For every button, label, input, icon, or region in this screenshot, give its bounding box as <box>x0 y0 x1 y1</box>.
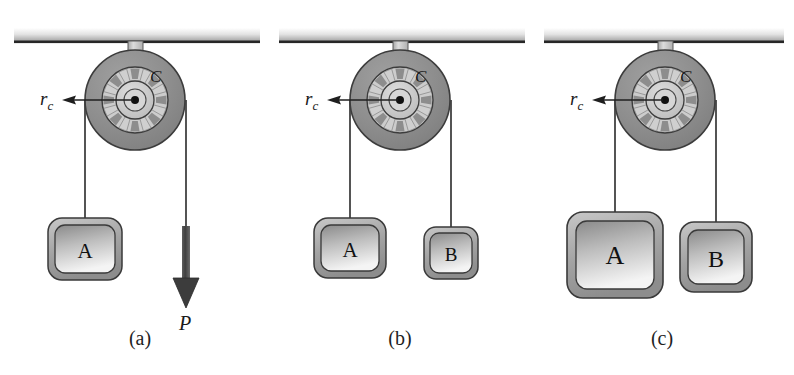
block-b-panel-c: B <box>680 222 752 292</box>
radius-label-c: rc <box>570 88 583 113</box>
physics-diagram-canvas: rc C A P (a) <box>0 0 794 375</box>
pulley-label-c: C <box>680 67 692 86</box>
pulley-label-b: C <box>415 67 427 86</box>
radius-label-b: rc <box>305 88 318 113</box>
panel-a: rc C A P (a) <box>14 28 260 350</box>
block-a-panel-b: A <box>314 218 386 278</box>
block-label-a-panel-a: A <box>77 239 93 263</box>
caption-panel-c: (c) <box>651 327 673 350</box>
panel-b: rc C A B (b) <box>279 28 525 350</box>
caption-panel-a: (a) <box>129 327 151 350</box>
block-label-b-panel-c: B <box>708 246 724 272</box>
block-label-a-panel-b: A <box>342 238 358 262</box>
block-b-panel-b: B <box>424 227 478 279</box>
block-label-b-panel-b: B <box>445 244 458 265</box>
force-arrow-p <box>173 226 199 308</box>
panel-c: rc C A B (c) <box>544 28 784 350</box>
force-label-p: P <box>178 312 191 334</box>
block-label-a-panel-c: A <box>606 241 625 270</box>
caption-panel-b: (b) <box>388 327 411 350</box>
block-a-panel-c: A <box>567 212 663 298</box>
block-a-panel-a: A <box>48 218 122 280</box>
figure-root: rc C A P (a) <box>0 0 794 375</box>
radius-label-a: rc <box>40 88 53 113</box>
pulley-label-a: C <box>150 67 162 86</box>
